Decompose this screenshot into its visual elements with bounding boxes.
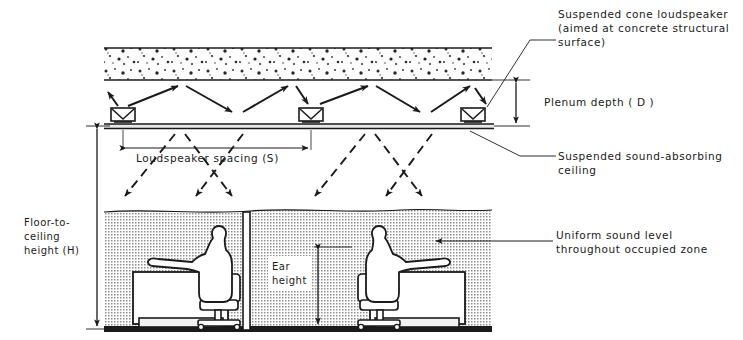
- uniform-level-line2: throughout occupied zone: [556, 243, 708, 255]
- ear-height-line1: Ear: [272, 261, 290, 272]
- floor-to-ceiling-line2: ceiling: [24, 231, 60, 242]
- workstation-partition: [243, 212, 250, 330]
- concrete-slab: [104, 48, 492, 80]
- loudspeaker-symbol: [299, 108, 323, 122]
- speaker-callout-line2: (aimed at concrete structural: [558, 22, 729, 34]
- speaker-callout-line1: Suspended cone loudspeaker: [558, 8, 728, 20]
- floor-to-ceiling-line1: Floor-to-: [24, 217, 70, 228]
- ceiling-callout-line1: Suspended sound-absorbing: [558, 150, 723, 162]
- speaker-callout-line3: surface): [558, 36, 606, 48]
- plenum-depth-label: Plenum depth ( D ): [544, 96, 654, 108]
- floor-to-ceiling-line3: height (H): [24, 245, 79, 256]
- suspended-ceiling: [104, 124, 494, 129]
- diagram-canvas: Plenum depth ( D ) Suspended cone loudsp…: [0, 0, 743, 340]
- loudspeaker-symbol: [111, 108, 135, 122]
- loudspeaker-symbol: [461, 108, 485, 122]
- ceiling-callout-line2: ceiling: [558, 164, 597, 176]
- ear-height-line2: height: [272, 275, 307, 286]
- uniform-level-line1: Uniform sound level: [556, 229, 673, 241]
